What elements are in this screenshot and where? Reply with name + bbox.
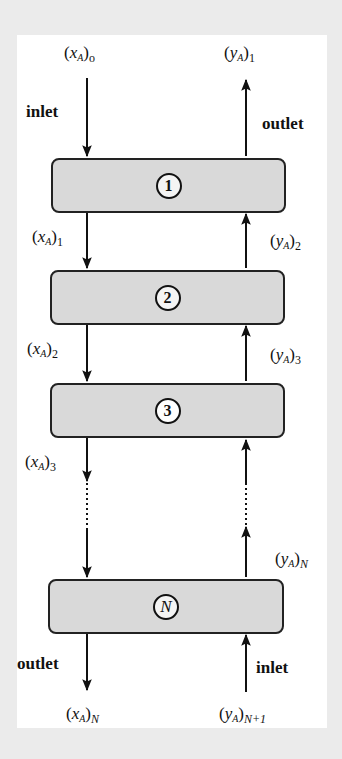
- label-x-out: (xA)N: [66, 705, 99, 725]
- stage-number-badge: N: [153, 594, 179, 620]
- stage-1: 1: [51, 158, 286, 213]
- stage-number-badge: 2: [155, 285, 181, 311]
- stage-N: N: [48, 579, 284, 634]
- label-y-N: (yA)N: [275, 550, 308, 570]
- label-x-3: (xA)3: [25, 453, 56, 473]
- label-y-out: (yA)1: [224, 44, 255, 64]
- label-y-3: (yA)3: [270, 346, 301, 366]
- label-x-2: (xA)2: [27, 340, 58, 360]
- stage-2: 2: [50, 270, 285, 325]
- label-y-in: (yA)N+1: [219, 705, 266, 725]
- label-x-1: (xA)1: [32, 228, 63, 248]
- stage-3: 3: [50, 383, 285, 438]
- label-outlet-top: outlet: [262, 115, 304, 132]
- stage-number-badge: 1: [156, 173, 182, 199]
- label-inlet-bottom: inlet: [256, 659, 288, 676]
- label-outlet-bottom: outlet: [17, 655, 59, 672]
- label-x-in: (xA)o: [64, 44, 95, 64]
- stage-number-badge: 3: [155, 398, 181, 424]
- label-y-2: (yA)2: [270, 232, 301, 252]
- label-inlet-top: inlet: [26, 103, 58, 120]
